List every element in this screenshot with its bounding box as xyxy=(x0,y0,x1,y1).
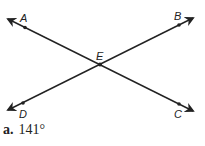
answer-value: 141° xyxy=(19,122,46,137)
label-a: A xyxy=(19,12,27,24)
label-b: B xyxy=(174,10,181,22)
answer-letter: a. xyxy=(3,122,14,137)
point-d xyxy=(21,101,25,105)
label-d: D xyxy=(19,108,27,120)
label-c: C xyxy=(174,108,182,120)
answer-choice: a.141° xyxy=(3,122,45,138)
label-e: E xyxy=(96,50,104,62)
point-c xyxy=(177,102,181,106)
point-e xyxy=(98,63,102,67)
point-a xyxy=(23,26,27,30)
point-b xyxy=(177,23,181,27)
